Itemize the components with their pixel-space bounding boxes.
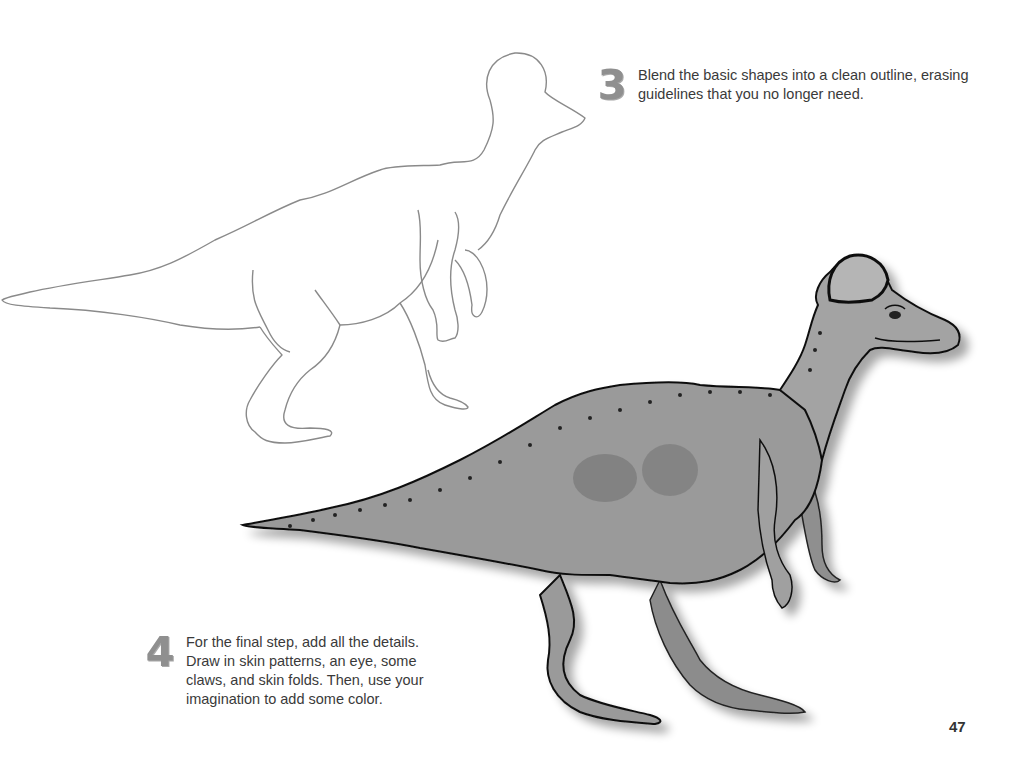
step-number: 3	[597, 66, 626, 104]
step-number: 4	[145, 633, 174, 671]
step-4: 4 For the final step, add all the detail…	[146, 633, 446, 709]
page-number: 47	[949, 718, 966, 735]
dinosaur-outline-drawing	[2, 53, 585, 443]
step-3: 3 Blend the basic shapes into a clean ou…	[598, 66, 978, 104]
step-instruction: Blend the basic shapes into a clean outl…	[638, 66, 978, 104]
step-instruction: For the final step, add all the details.…	[186, 633, 446, 709]
